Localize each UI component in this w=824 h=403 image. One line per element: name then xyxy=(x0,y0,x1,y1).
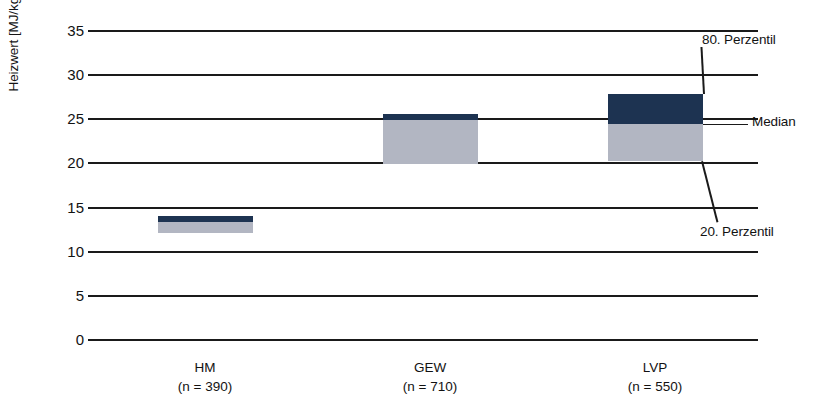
y-tick-label-0: 0 xyxy=(38,331,84,348)
gridline-15 xyxy=(88,207,758,209)
median-annotation-label: Median xyxy=(752,114,796,129)
p80-annotation-label: 80. Perzentil xyxy=(702,32,776,47)
y-tick-label-15: 15 xyxy=(38,198,84,215)
x-category-gew: GEW(n = 710) xyxy=(360,358,500,396)
chart-container: Heizwert [MJ/kg FS] 35302520151050 HM(n … xyxy=(0,0,824,403)
y-tick-label-35: 35 xyxy=(38,22,84,39)
x-category-hm: HM(n = 390) xyxy=(135,358,275,396)
y-tick-label-5: 5 xyxy=(38,286,84,303)
category-name-gew: GEW xyxy=(360,358,500,377)
category-name-lvp: LVP xyxy=(585,358,725,377)
median-leader-line xyxy=(703,124,749,126)
box-upper-band-lvp xyxy=(608,94,703,123)
gridline-0 xyxy=(88,339,758,341)
gridline-30 xyxy=(88,74,758,76)
box-hm xyxy=(158,216,253,233)
category-count-gew: (n = 710) xyxy=(360,377,500,396)
plot-area xyxy=(88,30,758,339)
box-lower-band-hm xyxy=(158,222,253,233)
y-tick-label-30: 30 xyxy=(38,66,84,83)
category-count-lvp: (n = 550) xyxy=(585,377,725,396)
box-lower-band-lvp xyxy=(608,124,703,161)
y-tick-label-10: 10 xyxy=(38,242,84,259)
y-tick-label-20: 20 xyxy=(38,154,84,171)
y-axis-title: Heizwert [MJ/kg FS] xyxy=(6,0,28,187)
y-tick-label-25: 25 xyxy=(38,110,84,127)
category-name-hm: HM xyxy=(135,358,275,377)
x-category-lvp: LVP(n = 550) xyxy=(585,358,725,396)
gridline-5 xyxy=(88,295,758,297)
gridline-10 xyxy=(88,251,758,253)
p20-annotation-label: 20. Perzentil xyxy=(700,224,774,239)
box-gew xyxy=(383,114,478,164)
category-count-hm: (n = 390) xyxy=(135,377,275,396)
gridline-35 xyxy=(88,30,758,32)
box-lvp xyxy=(608,94,703,160)
box-lower-band-gew xyxy=(383,120,478,164)
